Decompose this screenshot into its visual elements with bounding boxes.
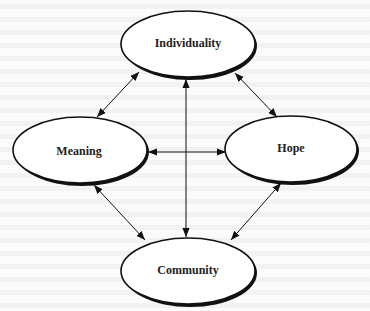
node-label-meaning: Meaning	[56, 144, 101, 159]
edge-individuality-hope	[235, 73, 277, 117]
edge-meaning-community	[94, 185, 145, 240]
edge-hope-community	[231, 183, 281, 240]
node-label-individuality: Individuality	[155, 36, 222, 51]
node-label-community: Community	[157, 263, 218, 278]
node-label-hope: Hope	[277, 141, 304, 156]
edge-meaning-individuality	[97, 72, 139, 117]
